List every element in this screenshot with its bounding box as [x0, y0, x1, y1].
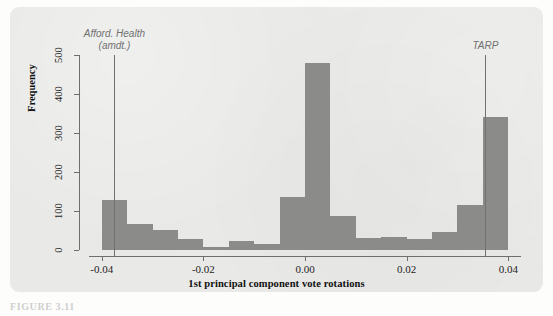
- histogram-bar: [178, 239, 203, 250]
- x-axis-tick: [305, 256, 306, 261]
- y-axis-title: Frequency: [26, 64, 37, 112]
- histogram-bar: [280, 197, 305, 250]
- x-axis-tick-label: 0.00: [295, 263, 314, 275]
- y-axis-tick-label: 200: [50, 161, 68, 183]
- y-axis-tick: [74, 211, 79, 212]
- annotation-label: TARP: [440, 40, 530, 52]
- annotation-line: [485, 55, 486, 256]
- histogram-bar: [305, 63, 330, 250]
- annotation-line: [114, 55, 115, 256]
- x-axis-tick-label: 0.02: [397, 263, 416, 275]
- x-axis-title: 1st principal component vote rotations: [0, 278, 553, 289]
- annotation-label-line2: (amdt.): [69, 40, 159, 52]
- y-axis-tick: [74, 250, 79, 251]
- histogram-bar: [203, 247, 228, 250]
- histogram-bar: [483, 117, 508, 250]
- x-axis-tick-label: 0.04: [499, 263, 518, 275]
- y-axis-tick-label: 300: [50, 122, 68, 144]
- y-axis-tick: [74, 172, 79, 173]
- y-axis-tick-label: 500: [50, 44, 68, 66]
- y-axis-tick: [74, 55, 79, 56]
- x-axis-tick: [508, 256, 509, 261]
- figure-root: 0100200300400500 -0.04-0.020.000.020.04 …: [0, 0, 553, 316]
- y-axis-tick-label: 0: [50, 239, 68, 261]
- histogram-bar: [229, 241, 254, 250]
- y-axis-line: [79, 55, 80, 250]
- histogram-bar: [381, 237, 406, 250]
- y-axis-tick-label: 400: [50, 83, 68, 105]
- x-axis-tick-label: -0.04: [90, 263, 113, 275]
- annotation-label-line1: Afford. Health: [69, 28, 159, 40]
- histogram-bar: [356, 238, 381, 250]
- x-axis-tick: [407, 256, 408, 261]
- y-axis-tick: [74, 94, 79, 95]
- annotation-label: Afford. Health(amdt.): [69, 28, 159, 52]
- x-axis-tick-label: -0.02: [192, 263, 215, 275]
- histogram-bar: [457, 205, 482, 250]
- histogram-bar: [254, 244, 279, 250]
- histogram-plot-area: [89, 55, 521, 250]
- figure-caption: FIGURE 3.11: [10, 301, 75, 314]
- histogram-bar: [127, 224, 152, 250]
- annotation-label-line1: TARP: [440, 40, 530, 52]
- x-axis-tick: [102, 256, 103, 261]
- histogram-bar: [432, 232, 457, 250]
- histogram-bar: [407, 239, 432, 250]
- histogram-bar: [330, 216, 355, 250]
- histogram-bar: [153, 230, 178, 250]
- x-axis-tick: [203, 256, 204, 261]
- y-axis-tick-label: 100: [50, 200, 68, 222]
- y-axis-tick: [74, 133, 79, 134]
